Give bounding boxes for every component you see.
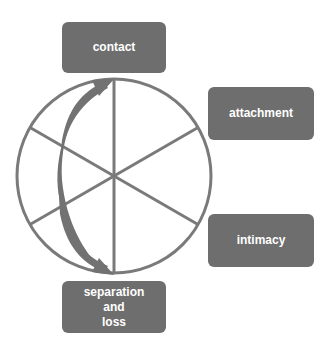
node-attachment: attachment <box>208 87 314 140</box>
wheel-spokes <box>30 79 198 273</box>
node-contact-label: contact <box>93 40 136 55</box>
node-separation-and-loss: separation and loss <box>62 281 166 333</box>
node-separation-label-line-3: loss <box>102 315 126 330</box>
node-separation-label-line-1: separation <box>84 285 145 300</box>
node-intimacy: intimacy <box>208 214 314 267</box>
node-separation-label-line-2: and <box>103 300 124 315</box>
node-contact: contact <box>62 22 166 73</box>
diagram-canvas: contact attachment intimacy separation a… <box>0 0 329 347</box>
node-attachment-label: attachment <box>229 106 293 121</box>
cycle-arrow-icon <box>57 79 114 275</box>
node-intimacy-label: intimacy <box>237 233 286 248</box>
